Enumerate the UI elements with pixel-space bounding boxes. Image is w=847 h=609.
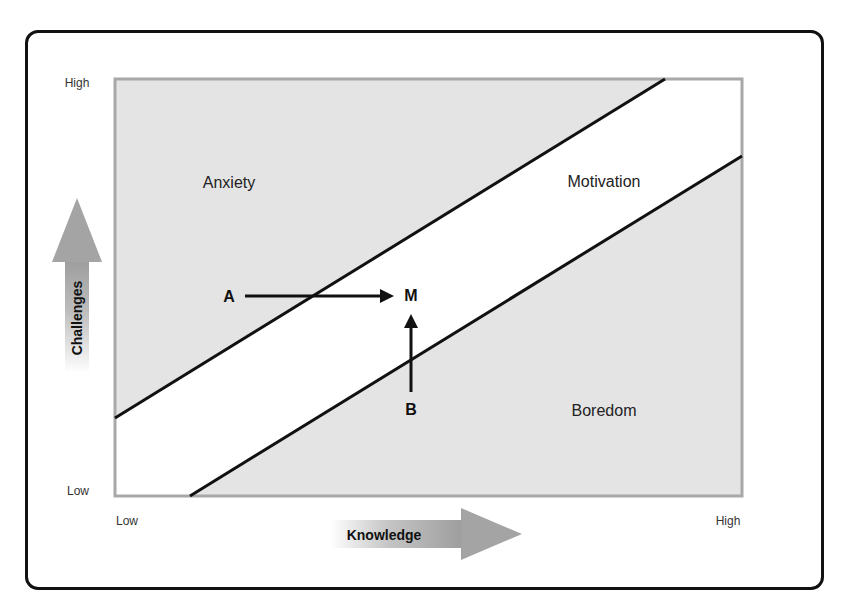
region-boredom-label: Boredom <box>572 402 637 420</box>
x-axis-high-label: High <box>716 514 741 528</box>
x-axis-title: Knowledge <box>347 527 422 543</box>
point-m-label: M <box>404 287 417 305</box>
y-axis-title: Challenges <box>69 281 85 356</box>
x-axis-low-label: Low <box>116 514 138 528</box>
region-motivation-label: Motivation <box>568 173 641 191</box>
y-axis-high-label: High <box>65 76 90 90</box>
y-axis-low-label: Low <box>67 484 89 498</box>
region-anxiety-label: Anxiety <box>203 174 255 192</box>
point-a-label: A <box>223 288 235 306</box>
point-b-label: B <box>405 401 417 419</box>
